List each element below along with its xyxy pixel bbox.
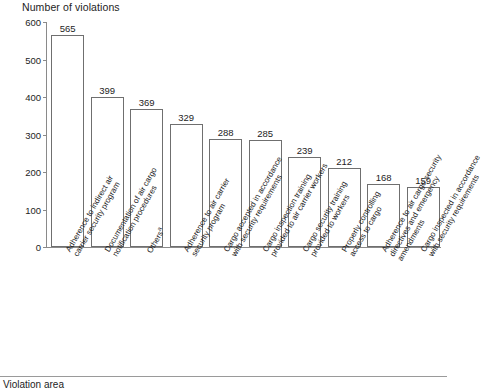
bar-value-label: 399 — [99, 85, 115, 96]
bar-value-label: 288 — [218, 127, 234, 138]
y-axis-line — [46, 22, 47, 247]
footer-divider — [0, 376, 447, 377]
bar-value-label: 239 — [297, 145, 313, 156]
y-axis-tick-label: 0 — [36, 242, 41, 253]
y-axis-tick-label: 200 — [25, 167, 41, 178]
y-axis-tick-mark — [43, 172, 46, 173]
bar-value-label: 565 — [60, 23, 76, 34]
y-axis-tick-mark — [43, 22, 46, 23]
y-axis-tick-label: 300 — [25, 129, 41, 140]
y-axis-tick-mark — [43, 97, 46, 98]
y-axis-tick-label: 100 — [25, 204, 41, 215]
y-axis-tick-label: 500 — [25, 54, 41, 65]
y-axis-tick-label: 400 — [25, 92, 41, 103]
y-axis-tick-mark — [43, 60, 46, 61]
bar-value-label: 212 — [336, 156, 352, 167]
bar-value-label: 168 — [376, 172, 392, 183]
chart-title: Number of violations — [22, 1, 120, 13]
y-axis-tick-mark — [43, 210, 46, 211]
x-axis-category-labels: Adherence to indirect aircarrier securit… — [46, 249, 441, 374]
y-axis-tick-mark — [43, 135, 46, 136]
bar-value-label: 369 — [139, 97, 155, 108]
bar: 565 — [51, 35, 84, 247]
y-axis-tick-label: 600 — [25, 17, 41, 28]
bar-value-label: 285 — [257, 128, 273, 139]
bar-value-label: 329 — [178, 112, 194, 123]
x-axis-caption: Violation area — [3, 379, 64, 390]
y-axis-tick-mark — [43, 247, 46, 248]
